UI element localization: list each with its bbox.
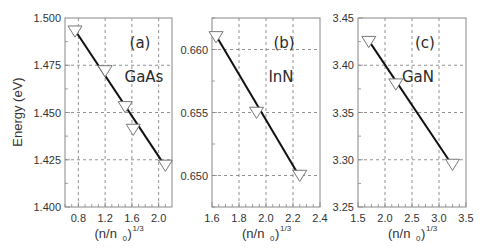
x-tick-label: 2.0 [377, 212, 392, 224]
x-axis-label: (n/n0)1/3 [388, 224, 438, 243]
x-tick-label: 2.0 [258, 212, 273, 224]
triangle-marker-icon [118, 102, 132, 113]
y-tick-label: 0.660 [180, 44, 208, 56]
x-axis-label: (n/n0)1/3 [242, 224, 292, 243]
panel-label: (c) [415, 34, 435, 52]
y-tick-label: 1.500 [33, 12, 61, 24]
triangle-marker-icon [158, 160, 172, 171]
svg-text:(n/n: (n/n [388, 226, 410, 241]
material-label: GaAs [125, 68, 164, 86]
triangle-marker-icon [126, 124, 140, 135]
svg-text:): ) [128, 226, 132, 241]
x-axis-label: (n/n0)1/3 [95, 224, 145, 243]
y-tick-label: 1.450 [33, 107, 61, 119]
x-tick-label: 0.8 [71, 212, 86, 224]
svg-text:1/3: 1/3 [426, 224, 438, 233]
triangle-marker-icon [362, 36, 376, 47]
triangle-marker-icon [209, 32, 223, 43]
x-tick-label: 1.2 [97, 212, 112, 224]
fit-line [218, 39, 298, 174]
y-axis-label: Energy (eV) [10, 77, 25, 146]
y-tick-label: 3.45 [333, 12, 354, 24]
y-tick-label: 3.40 [333, 59, 354, 71]
y-tick-label: 3.25 [333, 201, 354, 213]
svg-text:): ) [421, 226, 425, 241]
x-tick-label: 3.0 [431, 212, 446, 224]
y-tick-label: 0.655 [180, 107, 208, 119]
y-tick-label: 1.425 [33, 154, 61, 166]
y-tick-label: 3.35 [333, 107, 354, 119]
y-tick-label: 3.30 [333, 154, 354, 166]
x-tick-label: 3.5 [458, 212, 473, 224]
svg-text:1/3: 1/3 [133, 224, 145, 233]
gridlines [65, 18, 172, 207]
x-tick-label: 2.0 [151, 212, 166, 224]
panel-label: (b) [273, 34, 294, 52]
panel-inn: 1.61.82.02.22.40.6500.6550.660(n/n0)1/3(… [180, 18, 327, 243]
panel-label: (a) [130, 34, 151, 52]
x-tick-label: 1.5 [350, 212, 365, 224]
svg-text:(n/n: (n/n [95, 226, 117, 241]
triangle-marker-icon [98, 66, 112, 77]
y-tick-label: 1.400 [33, 201, 61, 213]
triangle-marker-icon [68, 26, 82, 37]
x-tick-label: 2.2 [285, 212, 300, 224]
svg-text:): ) [275, 226, 279, 241]
svg-text:1/3: 1/3 [280, 224, 292, 233]
gridlines [212, 18, 320, 207]
y-tick-label: 1.475 [33, 59, 61, 71]
x-tick-label: 2.4 [312, 212, 327, 224]
y-tick-label: 0.650 [180, 170, 208, 182]
energy-vs-density-figure: 0.81.21.62.01.4001.4251.4501.4751.500(n/… [0, 0, 489, 251]
gridlines [358, 18, 466, 207]
triangle-marker-icon [446, 159, 460, 170]
material-label: GaN [402, 68, 434, 86]
x-tick-label: 1.8 [231, 212, 246, 224]
svg-text:(n/n: (n/n [242, 226, 264, 241]
panel-gan: 1.52.02.53.03.53.253.303.353.403.45(n/n0… [333, 12, 474, 243]
x-tick-label: 1.6 [204, 212, 219, 224]
panel-gaas: 0.81.21.62.01.4001.4251.4501.4751.500(n/… [33, 12, 172, 243]
x-tick-label: 2.5 [404, 212, 419, 224]
x-tick-label: 1.6 [124, 212, 139, 224]
material-label: InN [268, 68, 293, 86]
fit-line [77, 33, 163, 163]
fit-line [371, 44, 451, 163]
